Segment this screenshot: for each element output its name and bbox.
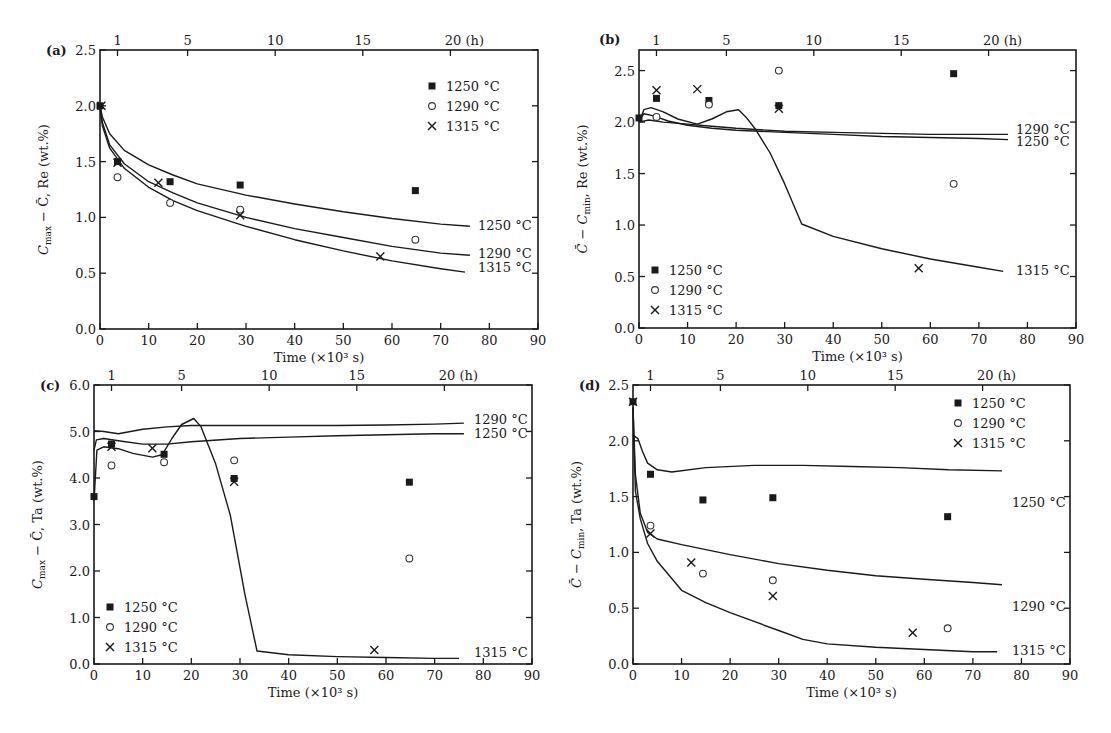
cross-marker: [646, 529, 654, 537]
x-tick-label: 40: [280, 668, 297, 683]
square-marker: [107, 604, 114, 611]
top-axis-hour-label: 1: [107, 368, 115, 383]
top-axis-hour-label: 5: [722, 33, 730, 48]
top-axis-hour-label: 20 (h): [977, 368, 1016, 383]
legend-entry: 1250 °C: [446, 79, 500, 94]
x-tick-label: 50: [335, 333, 352, 348]
square-marker: [944, 513, 951, 520]
square-marker: [769, 494, 776, 501]
y-tick-label: 4.0: [69, 471, 90, 486]
x-tick-label: 40: [286, 333, 303, 348]
model-curve-1290: [639, 120, 1008, 134]
circle-marker: [231, 457, 238, 464]
cross-marker: [954, 439, 962, 447]
y-tick-label: 0.5: [608, 601, 629, 616]
x-tick-label: 0: [629, 668, 637, 683]
circle-marker: [652, 287, 659, 294]
legend-entry: 1250 °C: [124, 600, 178, 615]
x-tick-label: 80: [1019, 332, 1036, 347]
circle-marker: [161, 459, 168, 466]
square-marker: [161, 451, 168, 458]
curve-label: 1290 °C: [478, 246, 532, 261]
circle-marker: [429, 103, 436, 110]
curve-label: 1290 °C: [1016, 122, 1070, 137]
top-axis-hour-label: 15: [887, 368, 904, 383]
y-axis-label: Cmax − C̄, Re (wt.%): [36, 124, 53, 255]
panel-a: 010203040506070809015101520 (h)0.00.51.0…: [36, 33, 547, 365]
top-axis-hour-label: 1: [646, 368, 654, 383]
x-tick-label: 60: [384, 333, 401, 348]
circle-marker: [107, 624, 114, 631]
y-tick-label: 0.0: [75, 322, 96, 337]
panel-b: 010203040506070809015101520 (h)0.00.51.0…: [575, 32, 1085, 364]
y-tick-label: 6.0: [69, 378, 90, 393]
legend-entry: 1315 °C: [972, 436, 1026, 451]
x-tick-label: 20: [722, 668, 739, 683]
y-tick-label: 1.5: [614, 167, 635, 182]
y-tick-label: 1.0: [614, 218, 635, 233]
model-curve-1315: [100, 106, 465, 272]
x-tick-label: 0: [635, 332, 643, 347]
panel-label: (b): [599, 32, 620, 47]
x-tick-label: 50: [868, 668, 885, 683]
x-axis-label: Time (×10³ s): [268, 685, 359, 700]
top-axis-hour-label: 15: [893, 33, 910, 48]
x-tick-label: 50: [874, 332, 891, 347]
top-axis-hour-label: 15: [349, 368, 366, 383]
cross-marker: [651, 306, 659, 314]
top-axis-hour-label: 20 (h): [439, 368, 478, 383]
curve-label: 1290 °C: [1012, 599, 1066, 614]
y-tick-label: 1.5: [608, 490, 629, 505]
figure-canvas: 010203040506070809015101520 (h)0.00.51.0…: [0, 0, 1111, 733]
y-axis-label: C̄ − Cmin, Re (wt.%): [575, 124, 592, 253]
y-tick-label: 2.0: [614, 115, 635, 130]
x-tick-label: 80: [475, 668, 492, 683]
x-tick-label: 80: [481, 333, 498, 348]
model-curve-1290: [633, 407, 1002, 585]
x-axis-label: Time (×10³ s): [812, 349, 903, 364]
x-tick-label: 90: [524, 668, 541, 683]
legend-entry: 1290 °C: [124, 620, 178, 635]
square-marker: [653, 95, 660, 102]
y-tick-label: 0.0: [614, 321, 635, 336]
x-tick-label: 20: [728, 332, 745, 347]
top-axis-hour-label: 1: [652, 33, 660, 48]
cross-marker: [769, 592, 777, 600]
x-tick-label: 70: [965, 668, 982, 683]
legend: 1250 °C1290 °C1315 °C: [954, 396, 1026, 451]
panel-label: (c): [40, 378, 60, 393]
circle-marker: [108, 462, 115, 469]
y-tick-label: 1.0: [608, 545, 629, 560]
legend-entry: 1290 °C: [446, 99, 500, 114]
circle-marker: [114, 174, 121, 181]
legend-entry: 1290 °C: [669, 283, 723, 298]
y-tick-label: 1.5: [75, 155, 96, 170]
y-axis-label: C̄ − Cmin, Ta (wt.%): [569, 461, 586, 588]
legend-entry: 1250 °C: [972, 396, 1026, 411]
square-marker: [955, 400, 962, 407]
top-axis-hour-label: 5: [177, 368, 185, 383]
square-marker: [167, 178, 174, 185]
top-axis-hour-label: 10: [261, 368, 278, 383]
x-tick-label: 90: [1062, 668, 1079, 683]
legend: 1250 °C1290 °C1315 °C: [106, 600, 178, 655]
x-tick-label: 70: [426, 668, 443, 683]
y-tick-label: 1.0: [75, 210, 96, 225]
model-curve-1250: [100, 106, 470, 227]
y-tick-label: 3.0: [69, 518, 90, 533]
x-tick-label: 30: [238, 333, 255, 348]
square-marker: [406, 479, 413, 486]
x-tick-label: 30: [776, 332, 793, 347]
x-tick-label: 40: [819, 668, 836, 683]
model-curve-1250: [639, 114, 1008, 140]
cross-marker: [376, 252, 384, 260]
model-curve-1290: [94, 423, 464, 434]
square-marker: [97, 102, 104, 109]
x-tick-label: 10: [134, 668, 151, 683]
y-tick-label: 0.0: [69, 657, 90, 672]
circle-marker: [406, 555, 413, 562]
x-tick-label: 90: [1068, 332, 1085, 347]
top-axis-hour-label: 15: [355, 33, 372, 48]
y-tick-label: 2.0: [608, 434, 629, 449]
panel-label: (a): [46, 43, 67, 58]
